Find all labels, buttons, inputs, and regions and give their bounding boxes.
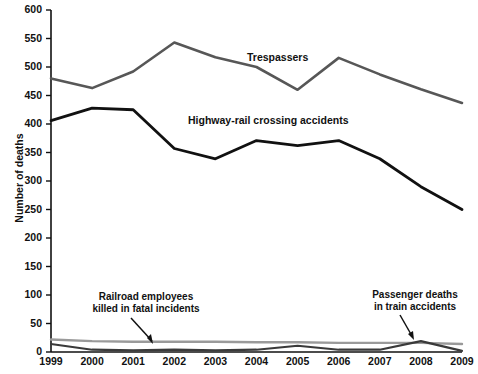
x-axis-tick-label: 2009: [438, 355, 478, 367]
callout-passenger-deaths: Passenger deaths in train accidents: [363, 289, 467, 312]
callout-railroad-employees-line2: killed in fatal incidents: [80, 303, 212, 315]
passenger-deaths-arrow-head: [408, 331, 414, 340]
callout-railroad-employees-line1: Railroad employees: [80, 291, 212, 303]
y-axis-tick-label: 200: [0, 231, 42, 243]
y-axis-tick-label: 50: [0, 317, 42, 329]
callout-arrows: [131, 315, 414, 344]
y-axis-tick-label: 400: [0, 117, 42, 129]
series-label-highway-rail: Highway-rail crossing accidents: [188, 114, 348, 126]
y-axis-tick-label: 250: [0, 203, 42, 215]
series-line: [51, 339, 462, 344]
callout-railroad-employees: Railroad employees killed in fatal incid…: [80, 291, 212, 314]
y-axis-tick-label: 300: [0, 174, 42, 186]
y-axis-tick-label: 450: [0, 89, 42, 101]
callout-passenger-deaths-line2: in train accidents: [363, 301, 467, 313]
y-axis-tick-label: 550: [0, 32, 42, 44]
callout-passenger-deaths-line1: Passenger deaths: [363, 289, 467, 301]
series-label-trespassers: Trespassers: [247, 51, 308, 63]
y-axis-tick-label: 500: [0, 60, 42, 72]
y-axis-tick-label: 150: [0, 260, 42, 272]
y-axis-tick-label: 350: [0, 146, 42, 158]
y-axis-tick-label: 100: [0, 288, 42, 300]
y-axis-tick-label: 600: [0, 3, 42, 15]
